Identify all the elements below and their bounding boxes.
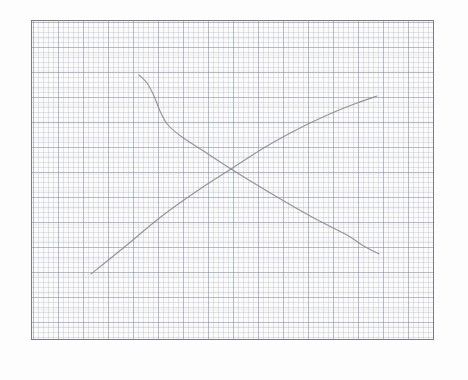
upward-sloping-curve [91, 96, 377, 274]
scanned-graph-paper-sheet [0, 0, 468, 380]
downward-sloping-curve [139, 75, 379, 254]
plot-frame [31, 20, 434, 340]
hand-drawn-curves-layer [32, 21, 434, 340]
curves-svg [32, 21, 434, 340]
